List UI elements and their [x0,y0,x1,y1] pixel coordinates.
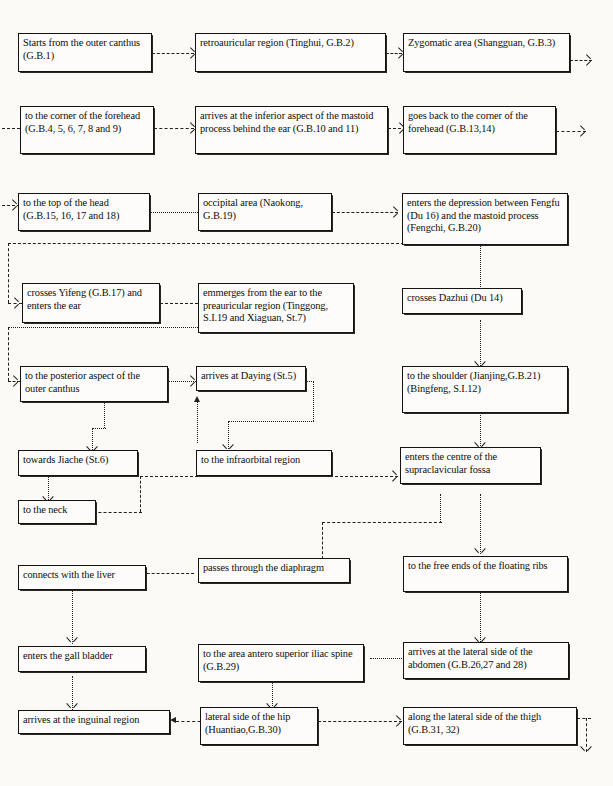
node-lateral-hip[interactable]: lateral side of the hip (Huantiao,G.B.30… [200,707,318,745]
edge-n19-riser [140,476,141,512]
arrowhead-wrap-n10 [14,299,21,308]
node-posterior-outer-canthus[interactable]: to the posterior aspect of the outer can… [20,366,168,402]
node-zygomatic-area[interactable]: Zygomatic area (Shangguan, G.B.3) [403,33,570,72]
node-starts-outer-canthus[interactable]: Starts from the outer canthus (G.B.1) [18,33,152,72]
edge-n17-n18 [140,476,398,477]
edge-n18-n21 [480,494,481,554]
node-floating-ribs[interactable]: to the free ends of the floating ribs [403,556,568,592]
arrowhead-n27-n26 [170,717,176,723]
arrowhead-n08-n09 [393,208,400,217]
arrowhead-n17-n14 [194,396,200,402]
edge-n07-n08 [150,212,198,213]
arrowhead-wrap-n13 [13,377,20,386]
node-retroauricular-region[interactable]: retroauricular region (Tinghui, G.B.2) [195,33,386,72]
edge-n25-n24 [370,658,402,659]
arrowhead-n23-n26 [68,703,77,710]
edge-n17-n14 [197,398,198,443]
node-antero-superior-iliac-spine[interactable]: to the area antero superior iliac spine … [198,644,364,682]
node-mastoid-process[interactable]: arrives at the inferior aspect of the ma… [195,106,388,154]
edge-n14-down [313,381,314,421]
node-supraclavicular-fossa[interactable]: enters the centre of the supraclavicular… [400,447,541,484]
edge-n11-wrap-horizontal [8,327,200,328]
node-passes-diaphragm[interactable]: passes through the diaphragm [198,558,350,583]
node-crosses-dazhui[interactable]: crosses Dazhui (Du 14) [402,288,522,314]
arrowhead-n27-n28 [396,717,403,726]
node-towards-jiache[interactable]: towards Jiache (St.6) [18,450,138,476]
node-corner-forehead[interactable]: to the corner of the forehead (G.B.4, 5,… [20,106,154,154]
node-depression-fengfu[interactable]: enters the depression between Fengfu (Du… [402,193,568,245]
edge-n08-n09 [332,212,398,213]
edge-n27-n28 [318,721,402,722]
flowchart-canvas: Starts from the outer canthus (G.B.1) re… [0,0,613,786]
edge-n09-wrap-horizontal [8,243,404,244]
node-lateral-abdomen[interactable]: arrives at the lateral side of the abdom… [403,642,569,679]
node-goes-back-corner-forehead[interactable]: goes back to the corner of the forehead … [403,106,556,154]
edge-n04-n05 [154,128,194,129]
edge-n22-n23 [72,590,73,644]
edge-wrap-n04 [2,128,20,129]
edge-n18-n20-v [440,494,441,522]
node-top-of-head[interactable]: to the top of the head (G.B.15, 16, 17 a… [18,193,150,231]
arrowhead-n03-wrap [586,56,593,65]
node-infraorbital-region[interactable]: to the infraorbital region [196,450,332,476]
edge-n09-wrap-vertical [8,243,9,303]
node-to-shoulder[interactable]: to the shoulder (Jianjing,G.B.21) (Bingf… [402,366,568,413]
arrowhead-n17-n18 [392,472,399,481]
node-arrives-daying[interactable]: arrives at Daying (St.5) [196,366,306,391]
edge-n18-n20-h [322,522,442,523]
edge-n01-n02 [152,53,194,54]
node-emerges-ear[interactable]: emmerges from the ear to the preauricula… [198,283,354,333]
arrowhead-n06-wrap [580,127,587,136]
edge-n14-left [228,421,314,422]
arrowhead-n28-continue [582,746,591,753]
edge-n13-n16-h [92,428,106,429]
arrowhead-n22-n23 [68,637,77,644]
node-to-the-neck[interactable]: to the neck [18,500,96,524]
node-occipital-area[interactable]: occipital area (Naokong, G.B.19) [198,193,332,231]
node-lateral-thigh[interactable]: along the lateral side of the thigh (G.B… [403,707,577,745]
node-connects-liver[interactable]: connects with the liver [18,565,146,590]
arrowhead-n18-n21 [476,548,485,555]
arrowhead-n25-n24 [364,654,371,663]
node-inguinal-region[interactable]: arrives at the inguinal region [18,710,170,734]
edge-n28-continue-h [577,718,591,719]
edge-n11-wrap-vertical [8,327,9,381]
edge-n10-n11 [160,303,198,304]
node-crosses-yifeng[interactable]: crosses Yifeng (G.B.17) and enters the e… [22,283,160,323]
node-enters-gall-bladder[interactable]: enters the gall bladder [18,646,146,672]
